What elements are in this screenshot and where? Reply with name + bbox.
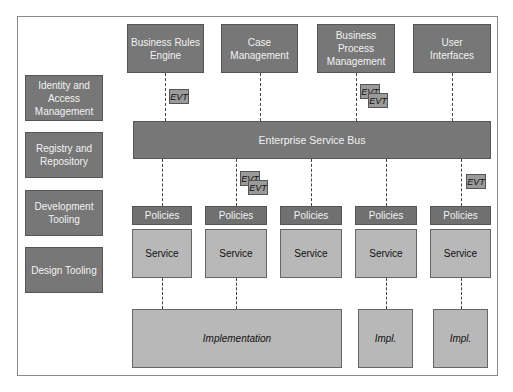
business-process-management-box: Business Process Management: [317, 24, 395, 73]
impl-box: Impl.: [433, 309, 488, 368]
connector-line: [165, 73, 166, 121]
connector-line: [452, 73, 453, 121]
development-tooling-box: Development Tooling: [25, 190, 103, 236]
implementation-label: Implementation: [203, 332, 271, 345]
box-label: User Interfaces: [427, 36, 477, 62]
impl-box: Impl.: [358, 309, 413, 368]
policies-label: Policies: [369, 209, 403, 222]
esb-label: Enterprise Service Bus: [259, 134, 366, 147]
event-label: EVT: [249, 183, 267, 193]
registry-repository-box: Registry and Repository: [25, 132, 103, 178]
service-label: Service: [145, 247, 178, 260]
service-box: Service: [132, 229, 192, 278]
connector-line: [386, 278, 387, 309]
event-marker: EVT: [169, 89, 189, 104]
service-label: Service: [369, 247, 402, 260]
service-label: Service: [219, 247, 252, 260]
policies-box: Policies: [355, 206, 417, 225]
box-label: Business Rules Engine: [131, 36, 201, 62]
connector-line: [236, 159, 237, 206]
user-interfaces-box: User Interfaces: [413, 24, 491, 73]
event-label: EVT: [467, 177, 485, 187]
event-label: EVT: [170, 92, 188, 102]
event-marker: EVT: [466, 174, 486, 189]
case-management-box: Case Management: [221, 24, 298, 73]
box-label: Design Tooling: [31, 264, 96, 277]
service-box: Service: [355, 229, 417, 278]
design-tooling-box: Design Tooling: [25, 247, 103, 293]
implementation-label: Impl.: [450, 332, 472, 345]
policies-label: Policies: [145, 209, 179, 222]
policies-label: Policies: [443, 209, 477, 222]
service-box: Service: [430, 229, 491, 278]
business-rules-engine-box: Business Rules Engine: [127, 24, 204, 73]
connector-line: [260, 73, 261, 121]
box-label: Registry and Repository: [26, 142, 102, 168]
connector-line: [461, 159, 462, 206]
connector-line: [162, 159, 163, 206]
connector-line: [461, 278, 462, 309]
policies-box: Policies: [132, 206, 192, 225]
policies-label: Policies: [294, 209, 328, 222]
box-label: Development Tooling: [26, 200, 102, 226]
box-label: Case Management: [230, 36, 290, 62]
policies-box: Policies: [280, 206, 342, 225]
service-box: Service: [205, 229, 267, 278]
event-label: EVT: [369, 96, 387, 106]
implementation-label: Impl.: [375, 332, 397, 345]
box-label: Identity and Access Management: [26, 79, 102, 118]
policies-box: Policies: [205, 206, 267, 225]
connector-line: [386, 159, 387, 206]
event-marker: EVT: [248, 180, 268, 195]
service-box: Service: [280, 229, 342, 278]
event-marker: EVT: [368, 93, 388, 108]
service-label: Service: [294, 247, 327, 260]
service-label: Service: [444, 247, 477, 260]
enterprise-service-bus: Enterprise Service Bus: [133, 121, 491, 159]
box-label: Business Process Management: [324, 29, 388, 68]
policies-label: Policies: [219, 209, 253, 222]
policies-box: Policies: [430, 206, 491, 225]
implementation-box: Implementation: [132, 309, 342, 368]
identity-access-management-box: Identity and Access Management: [25, 75, 103, 121]
connector-line: [356, 73, 357, 121]
connector-line: [162, 278, 163, 309]
connector-line: [311, 159, 312, 206]
connector-line: [236, 278, 237, 309]
